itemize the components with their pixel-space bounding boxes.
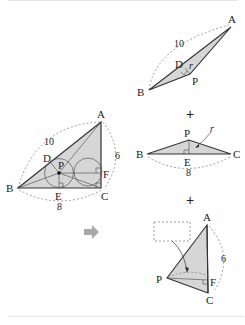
label-A: A [228, 13, 236, 25]
part-triangle-ABP: A B D P r 10 [137, 13, 236, 98]
label-P: P [58, 159, 64, 171]
label-r: r [210, 123, 214, 134]
triangle-ABP [149, 27, 231, 90]
bottom-divider [8, 316, 244, 317]
label-F: F [103, 168, 109, 180]
label-P: P [184, 127, 190, 139]
label-D: D [175, 58, 183, 70]
label-A: A [97, 108, 105, 120]
length-BC: 8 [186, 167, 191, 178]
label-D: D [43, 152, 51, 164]
diagram-canvas: A B C D E F P 10 6 8 A B D P r 10 + P B [0, 0, 245, 325]
answer-blank-box[interactable] [154, 222, 190, 241]
label-P: P [192, 75, 198, 87]
label-P: P [156, 273, 162, 285]
right-arrow-icon [84, 225, 99, 239]
part-triangle-CAP: A P F C 6 [154, 211, 226, 306]
label-B: B [6, 182, 13, 194]
label-B: B [137, 86, 144, 98]
label-r: r [189, 60, 193, 71]
length-AB: 10 [44, 136, 54, 147]
label-A: A [203, 211, 211, 223]
triangle-ABC [18, 122, 101, 188]
plus-sign: + [186, 192, 194, 208]
part-triangle-BCP: P B C E r 8 [136, 123, 240, 178]
length-AC: 6 [221, 253, 226, 264]
label-C: C [101, 190, 108, 202]
length-BC: 8 [57, 201, 62, 212]
point-P [57, 171, 61, 175]
length-AB: 10 [174, 38, 184, 49]
label-C: C [233, 148, 240, 160]
main-triangle-figure: A B C D E F P 10 6 8 [6, 108, 120, 212]
label-F: F [210, 276, 216, 288]
plus-sign: + [186, 106, 194, 122]
length-AC: 6 [115, 150, 120, 161]
label-C: C [206, 294, 213, 306]
label-B: B [136, 148, 143, 160]
